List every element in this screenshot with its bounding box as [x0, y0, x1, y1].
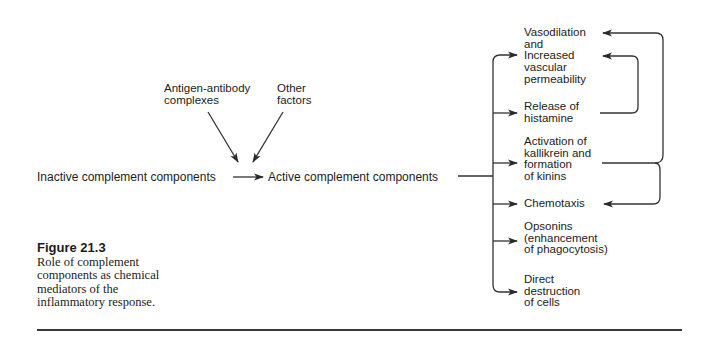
label-other-factors: Other factors — [277, 83, 312, 107]
label-antigen-antibody-complexes: Antigen-antibody complexes — [164, 83, 250, 107]
arrow-to-vascular-permeability — [493, 55, 517, 176]
arrow-other-factors-to-activation — [253, 112, 283, 162]
figure-number: Figure 21.3 — [37, 241, 106, 255]
label-chemotaxis: Chemotaxis — [524, 198, 585, 210]
arrow-kallikrein-to-chemotaxis — [604, 163, 660, 204]
label-direct-destruction: Direct destruction of cells — [524, 274, 580, 309]
arrow-histamine-to-permeability — [600, 56, 638, 113]
arrow-antigen-to-activation — [208, 112, 238, 162]
label-active-complement: Active complement components — [268, 170, 438, 184]
arrow-kallikrein-to-vasodilation — [603, 33, 663, 163]
label-opsonins: Opsonins (enhancement of phagocytosis) — [524, 221, 608, 256]
label-inactive-complement: Inactive complement components — [37, 170, 216, 184]
label-kallikrein-kinins: Activation of kallikrein and formation o… — [524, 136, 591, 183]
figure-caption: Role of complement components as chemica… — [37, 256, 159, 310]
label-vasodilation-permeability: Vasodilation and Increased vascular perm… — [524, 27, 586, 86]
bottom-rule-divider — [37, 329, 682, 331]
arrow-to-direct-destruction — [493, 176, 517, 292]
label-release-histamine: Release of histamine — [524, 101, 579, 124]
